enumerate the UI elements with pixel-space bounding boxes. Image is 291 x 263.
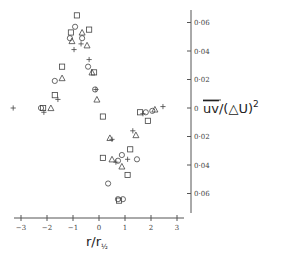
y-tick-label: 0·06 (194, 190, 210, 198)
x-axis: −3−2−10123 (14, 215, 184, 232)
square-marker (59, 64, 64, 69)
circle-marker (80, 36, 85, 41)
circle-marker (52, 78, 57, 83)
square-marker (87, 27, 92, 32)
plus-marker (140, 111, 145, 116)
plus-marker (125, 157, 130, 162)
triangle-marker (79, 29, 85, 35)
square-marker (100, 155, 105, 160)
y-tick-label: 0·02 (194, 76, 210, 84)
plus-marker (78, 41, 83, 46)
x-axis-title-subscript: ½ (101, 243, 108, 251)
x-axis-title: r/r½ (86, 234, 108, 251)
square-marker (128, 147, 133, 152)
plus-marker (71, 47, 76, 52)
circle-marker (38, 105, 43, 110)
triangle-marker (133, 132, 139, 138)
x-tick-label: −3 (16, 224, 26, 232)
plus-marker (11, 105, 16, 110)
y-axis-title-exponent: 2 (253, 99, 259, 109)
y-tick-label: 0·04 (194, 162, 210, 170)
x-axis-title-main: r/r (86, 234, 102, 249)
circle-marker (134, 157, 139, 162)
scatter-chart: −3−2−10123 0·060·040·0200·020·040·06 uv/… (0, 0, 291, 263)
triangle-marker (89, 69, 95, 75)
y-tick-label: 0 (194, 105, 198, 113)
triangle-marker (109, 156, 115, 162)
plus-marker (160, 104, 165, 109)
triangle-marker (119, 163, 125, 169)
y-tick-label: 0·06 (194, 19, 210, 27)
circle-marker (119, 152, 124, 157)
plus-marker (87, 57, 92, 62)
square-marker (52, 93, 57, 98)
x-tick-label: 2 (149, 224, 153, 232)
y-axis-title-rest: /(△U) (219, 101, 253, 116)
triangle-marker (59, 75, 65, 81)
circle-marker (120, 197, 125, 202)
y-axis-title-overline-part: uv (203, 101, 219, 116)
x-tick-label: 0 (97, 224, 101, 232)
plus-marker (130, 128, 135, 133)
square-marker (125, 172, 130, 177)
circle-marker (106, 181, 111, 186)
y-axis-title: uv/(△U)2 (203, 99, 259, 116)
x-tick-label: 1 (123, 224, 127, 232)
circle-marker (72, 24, 77, 29)
triangle-marker (84, 42, 90, 48)
triangle-marker (48, 105, 54, 111)
x-tick-label: −2 (42, 224, 52, 232)
triangle-marker (94, 96, 100, 102)
plus-marker (93, 87, 98, 92)
data-markers (11, 13, 166, 203)
x-tick-label: −1 (68, 224, 78, 232)
x-tick-label: 3 (175, 224, 179, 232)
y-tick-label: 0·02 (194, 133, 210, 141)
circle-marker (85, 64, 90, 69)
square-marker (100, 114, 105, 119)
plus-marker (109, 137, 114, 142)
square-marker (74, 13, 79, 18)
y-tick-label: 0·04 (194, 48, 210, 56)
square-marker (145, 118, 150, 123)
square-marker (68, 30, 73, 35)
